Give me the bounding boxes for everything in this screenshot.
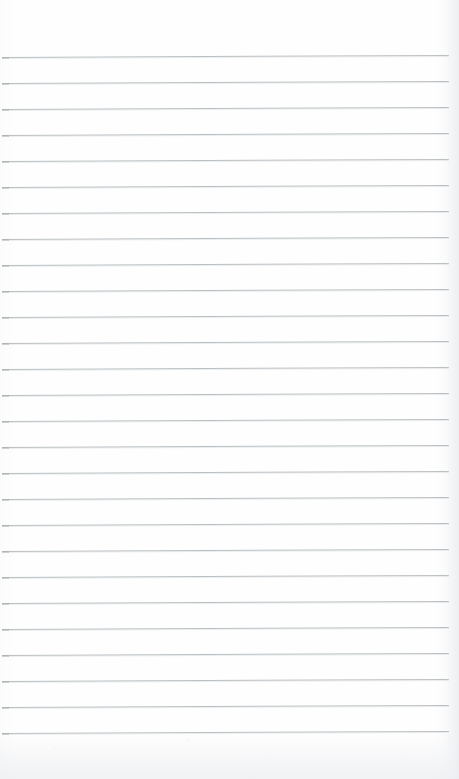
ruled-line (2, 55, 449, 58)
ruled-line (2, 185, 449, 188)
ruled-lines-group (0, 0, 459, 779)
ruled-line (2, 497, 449, 500)
ruled-line (2, 471, 449, 474)
ruled-line (2, 731, 449, 734)
ruled-line (2, 445, 449, 448)
ruled-line (2, 627, 449, 630)
ruled-line (2, 419, 449, 422)
ruled-line (2, 263, 449, 266)
ruled-line (2, 107, 449, 110)
ruled-line (2, 289, 449, 292)
ruled-line (2, 341, 449, 344)
ruled-line (2, 315, 449, 318)
scanned-page (0, 0, 459, 779)
ruled-line (2, 393, 449, 396)
ruled-line (2, 653, 449, 656)
ruled-line (2, 211, 449, 214)
ruled-line (2, 367, 449, 370)
ruled-line (2, 601, 449, 604)
ruled-line (2, 159, 449, 162)
ruled-line (2, 523, 449, 526)
ruled-line (2, 133, 449, 136)
ruled-line (2, 705, 449, 708)
ruled-line (2, 81, 449, 84)
ruled-line (2, 679, 449, 682)
ruled-line (2, 549, 449, 552)
ruled-line (2, 237, 449, 240)
ruled-line (2, 575, 449, 578)
